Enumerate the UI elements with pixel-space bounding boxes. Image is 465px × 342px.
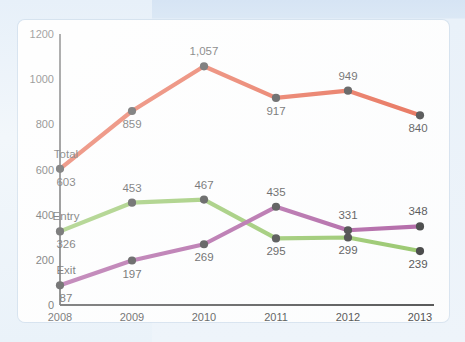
data-point-total: [272, 94, 280, 102]
value-label-exit: 269: [194, 251, 213, 263]
x-tick-label: 2008: [48, 311, 72, 322]
line-chart: 120010008006004002000 200820092010201120…: [18, 20, 449, 322]
value-label-entry: 326: [56, 238, 75, 250]
x-tick-label: 2009: [120, 311, 144, 322]
y-tick-label: 400: [36, 209, 54, 221]
data-point-exit: [344, 226, 352, 234]
value-label-total: 840: [408, 122, 427, 134]
data-point-entry: [200, 195, 208, 203]
data-point-exit: [56, 281, 64, 289]
series-label-entry: Entry: [53, 210, 80, 222]
value-label-exit: 435: [266, 186, 285, 198]
value-label-exit: 331: [338, 209, 357, 221]
data-point-entry: [56, 227, 64, 235]
data-point-total: [56, 165, 64, 173]
data-point-exit: [128, 256, 136, 264]
value-label-entry: 467: [194, 179, 213, 191]
value-label-total: 1,057: [190, 45, 219, 57]
data-point-entry: [272, 234, 280, 242]
x-tick-label: 2011: [264, 311, 288, 322]
value-label-total: 949: [338, 70, 357, 82]
value-label-entry: 453: [122, 182, 141, 194]
x-tick-label: 2010: [192, 311, 216, 322]
series-lines: [60, 66, 420, 285]
y-tick-label: 200: [36, 254, 54, 266]
value-label-entry: 299: [338, 244, 357, 256]
value-label-total: 859: [122, 118, 141, 130]
y-tick-label: 800: [36, 118, 54, 130]
x-tick-label: 2013: [408, 311, 432, 322]
value-label-entry: 295: [266, 245, 285, 257]
value-label-exit: 87: [60, 292, 73, 304]
data-point-entry: [344, 233, 352, 241]
y-tick-label: 600: [36, 164, 54, 176]
y-tick-labels: 120010008006004002000: [30, 28, 54, 311]
data-point-total: [416, 111, 424, 119]
y-tick-label: 0: [48, 299, 54, 311]
data-point-exit: [200, 240, 208, 248]
series-line-total: [60, 66, 420, 169]
value-label-total: 917: [266, 105, 285, 117]
series-label-exit: Exit: [56, 264, 76, 276]
x-tick-label: 2012: [336, 311, 360, 322]
y-tick-label: 1200: [30, 28, 54, 40]
y-tick-label: 1000: [30, 73, 54, 85]
value-label-total: 603: [56, 176, 75, 188]
data-point-total: [344, 87, 352, 95]
data-point-exit: [272, 203, 280, 211]
chart-card: 120010008006004002000 200820092010201120…: [18, 20, 449, 322]
value-label-exit: 197: [122, 268, 141, 280]
x-tick-labels: 200820092010201120122013: [48, 311, 432, 322]
data-point-total: [128, 107, 136, 115]
data-point-exit: [416, 222, 424, 230]
value-label-entry: 239: [408, 258, 427, 270]
data-point-entry: [128, 199, 136, 207]
data-point-total: [200, 62, 208, 70]
value-label-exit: 348: [408, 205, 427, 217]
data-point-entry: [416, 247, 424, 255]
series-label-total: Total: [54, 148, 78, 160]
